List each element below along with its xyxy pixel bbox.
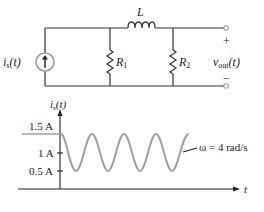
r1-label: R1 [115, 55, 127, 70]
annotation-leader [183, 148, 197, 152]
signal-waveform [61, 134, 189, 171]
circuit-diagram: is(t) L R1 R2 + − vout(t) t is(t) 1.5 A … [0, 0, 264, 212]
x-axis-arrow-icon [233, 187, 240, 192]
inductor-label: L [136, 5, 144, 19]
tick-label-1-5: 1.5 A [29, 120, 53, 132]
tick-label-0-5: 0.5 A [29, 165, 53, 177]
plus-sign: + [223, 34, 230, 48]
current-source-icon [36, 53, 54, 71]
y-axis-label: is(t) [50, 98, 67, 112]
resistor-r1-icon [107, 50, 113, 74]
minus-sign: − [223, 71, 230, 85]
x-axis-label: t [244, 183, 248, 195]
output-terminal-top [224, 26, 228, 30]
vout-label: vout(t) [213, 55, 240, 70]
source-label: is(t) [3, 55, 21, 70]
frequency-annotation: ω = 4 rad/s [199, 141, 248, 153]
y-axis-arrow-icon [58, 109, 63, 116]
tick-label-1: 1 A [38, 147, 54, 159]
inductor-icon [128, 22, 155, 28]
r2-label: R2 [178, 55, 190, 70]
resistor-r2-icon [170, 50, 176, 74]
